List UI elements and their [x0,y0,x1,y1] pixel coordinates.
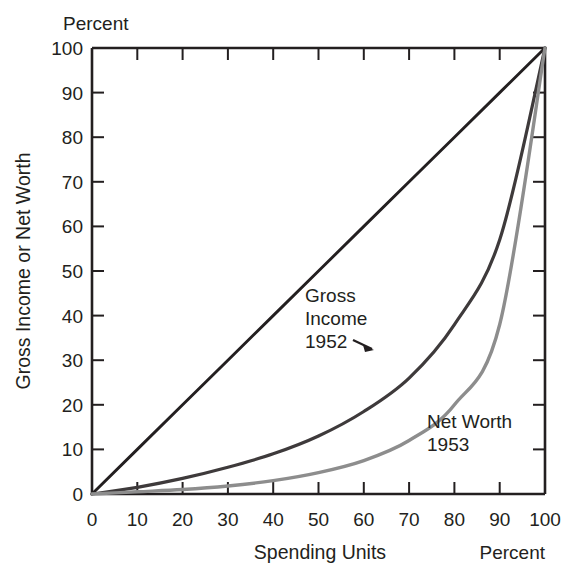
x-tick-label: 70 [399,509,420,530]
y-tick-label: 0 [72,484,83,505]
x-tick-label: 40 [263,509,284,530]
y-tick-label: 100 [51,38,83,59]
x-tick-label: 0 [87,509,98,530]
x-tick-label: 80 [444,509,465,530]
y-axis-title: Gross Income or Net Worth [12,153,34,390]
x-tick-label: 50 [308,509,329,530]
annotation-gross-line-1: Gross [305,285,356,306]
annotation-gross-income-1952: Gross Income 1952 [305,285,374,352]
x-tick-label: 60 [353,509,374,530]
x-axis-title: Spending Units [254,541,387,563]
annotation-gross-line-2: Income [305,308,367,329]
x-tick-label: 100 [529,509,561,530]
annotation-net-line-2: 1953 [427,434,469,455]
annotation-gross-line-3: 1952 [305,331,347,352]
y-tick-label: 30 [62,350,83,371]
annotation-net-line-1: Net Worth [427,411,512,432]
annotation-arrow-head-icon [363,345,374,352]
annotation-arrow-icon [353,340,372,349]
x-tick-labels: 0 10 20 30 40 50 60 70 80 90 100 [87,509,561,530]
x-tick-label: 90 [489,509,510,530]
y-tick-label: 70 [62,172,83,193]
lorenz-chart: Percent 100 90 80 70 60 50 40 30 20 10 0… [0,0,576,583]
y-tick-label: 40 [62,306,83,327]
y-axis-unit-label: Percent [63,13,129,34]
x-tick-label: 20 [172,509,193,530]
annotation-net-worth-1953: Net Worth 1953 [427,411,512,455]
y-axis-ticks [92,48,104,494]
y-tick-label: 10 [62,439,83,460]
lorenz-curve-figure: Percent 100 90 80 70 60 50 40 30 20 10 0… [0,0,576,583]
y-tick-label: 90 [62,83,83,104]
y-tick-label: 80 [62,127,83,148]
x-tick-label: 10 [127,509,148,530]
x-axis-unit-label: Percent [480,542,546,563]
y-tick-label: 50 [62,261,83,282]
y-tick-label: 60 [62,216,83,237]
x-axis-ticks-top [137,48,499,60]
y-tick-labels: 100 90 80 70 60 50 40 30 20 10 0 [51,38,83,505]
x-tick-label: 30 [217,509,238,530]
y-tick-label: 20 [62,395,83,416]
y-axis-ticks-right [533,93,545,450]
